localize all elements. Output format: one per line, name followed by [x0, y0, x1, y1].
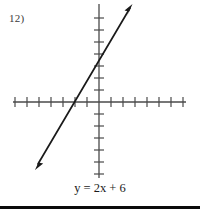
arrowhead-lower-left-icon: [35, 157, 43, 170]
equation-caption: y = 2x + 6: [0, 181, 200, 196]
y-axis-group: [94, 4, 104, 178]
section-divider-rule: [0, 206, 200, 209]
coordinate-plane-svg: [0, 0, 200, 185]
worksheet-problem-card: 12): [0, 0, 200, 215]
coordinate-graph: [0, 0, 200, 185]
plotted-line-group: [35, 4, 133, 170]
linear-function-line: [38, 8, 130, 164]
